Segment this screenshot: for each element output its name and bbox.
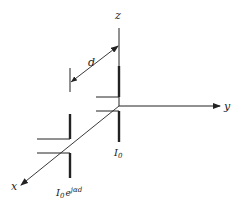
dipole-origin: [96, 66, 119, 142]
dipole-origin-current: I0: [113, 147, 123, 160]
dipole-array-diagram: z y x d I0 I0ejαd: [0, 0, 244, 215]
y-axis-label: y: [223, 100, 231, 113]
dipole-offset-current: I0ejαd: [55, 186, 83, 200]
z-axis-label: z: [114, 9, 121, 22]
spacing-label: d: [88, 56, 95, 69]
spacing-dimension: [70, 46, 118, 92]
x-axis-label: x: [11, 180, 18, 193]
